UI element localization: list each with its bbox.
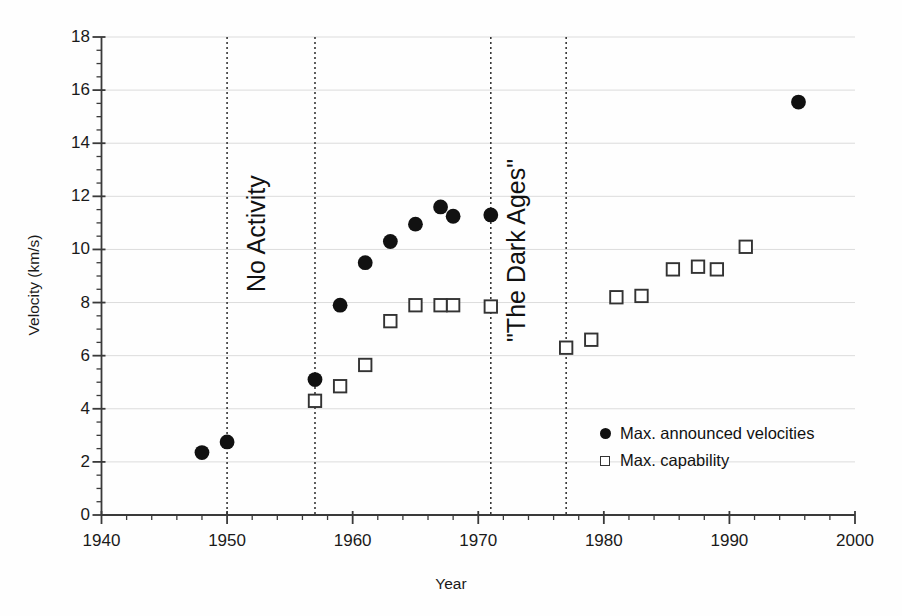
data-point-filled-circle — [433, 200, 448, 215]
data-point-open-square — [585, 334, 597, 346]
legend-label: Max. announced velocities — [620, 425, 814, 442]
y-axis-tick-label: 8 — [40, 293, 90, 313]
plot-canvas — [0, 0, 902, 616]
data-point-filled-circle — [333, 298, 348, 313]
y-axis-tick-label: 4 — [40, 399, 90, 419]
data-point-open-square — [692, 261, 704, 273]
data-point-open-square — [610, 291, 622, 303]
chart-annotation: "The Dark Ages" — [502, 159, 531, 342]
data-point-open-square — [635, 290, 647, 302]
data-point-filled-circle — [408, 217, 423, 232]
data-point-open-square — [560, 342, 572, 354]
y-axis-title: Velocity (km/s) — [22, 170, 46, 400]
y-axis-tick-label: 16 — [40, 80, 90, 100]
data-point-filled-circle — [308, 372, 323, 387]
data-point-filled-circle — [383, 234, 398, 249]
data-point-filled-circle — [195, 445, 210, 460]
x-axis-title-text: Year — [435, 575, 466, 592]
data-markers-group — [195, 95, 806, 460]
x-axis-title: Year — [0, 575, 902, 593]
x-axis-tick-label: 1940 — [83, 531, 121, 551]
y-axis-title-text: Velocity (km/s) — [25, 235, 43, 336]
legend-label: Max. capability — [620, 452, 729, 469]
y-axis-tick-label: 18 — [40, 27, 90, 47]
y-axis-tick-label: 2 — [40, 452, 90, 472]
x-axis-tick-label: 2000 — [836, 531, 874, 551]
data-point-open-square — [334, 380, 346, 392]
x-axis-tick-label: 1980 — [585, 531, 623, 551]
x-axis-tick-label: 1950 — [208, 531, 246, 551]
y-axis-tick-label: 14 — [40, 133, 90, 153]
x-axis-tick-label: 1960 — [334, 531, 372, 551]
y-axis-tick-label: 12 — [40, 186, 90, 206]
data-point-open-square — [309, 395, 321, 407]
data-point-open-square — [740, 241, 752, 253]
data-point-filled-circle — [446, 209, 461, 224]
legend-entry-max-capability: Max. capability — [596, 447, 814, 474]
y-axis-tick-label: 10 — [40, 239, 90, 259]
data-point-filled-circle — [791, 95, 806, 110]
x-axis-tick-label: 1990 — [710, 531, 748, 551]
data-point-filled-circle — [483, 208, 498, 223]
scatter-chart-figure: 024681012141618 194019501960197019801990… — [0, 0, 902, 616]
chart-legend: Max. announced velocities Max. capabilit… — [596, 420, 814, 474]
data-point-open-square — [359, 359, 371, 371]
legend-entry-announced-velocities: Max. announced velocities — [596, 420, 814, 447]
x-axis-tick-label: 1970 — [459, 531, 497, 551]
open-square-icon — [596, 456, 614, 466]
data-point-open-square — [409, 299, 421, 311]
data-point-open-square — [667, 263, 679, 275]
data-point-open-square — [384, 315, 396, 327]
data-point-open-square — [485, 300, 497, 312]
data-point-filled-circle — [220, 435, 235, 450]
y-axis-tick-label: 6 — [40, 346, 90, 366]
data-point-filled-circle — [358, 255, 373, 270]
filled-circle-icon — [596, 428, 614, 439]
y-axis-tick-label: 0 — [40, 505, 90, 525]
data-point-open-square — [447, 299, 459, 311]
data-point-open-square — [434, 299, 446, 311]
chart-annotation: No Activity — [242, 175, 271, 292]
data-point-open-square — [711, 263, 723, 275]
